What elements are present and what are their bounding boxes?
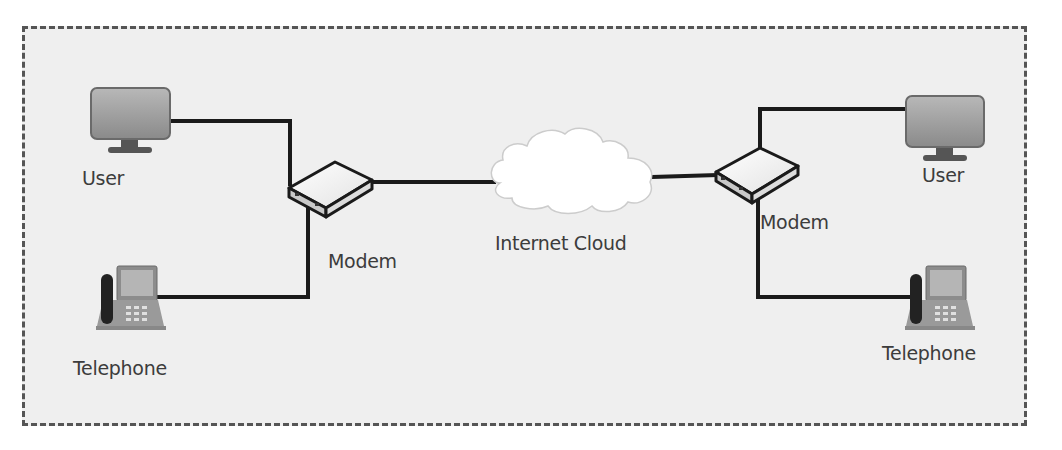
label-telephone-left: Telephone xyxy=(73,357,167,379)
modem-icon-right[interactable] xyxy=(716,148,798,203)
diagram-graphics xyxy=(0,0,1062,450)
cloud-icon[interactable] xyxy=(491,128,651,213)
label-internet-cloud: Internet Cloud xyxy=(495,232,627,254)
modem-icon-left[interactable] xyxy=(289,162,372,217)
link-user-left-modem xyxy=(170,121,290,186)
label-user-right: User xyxy=(922,164,964,186)
computer-icon-left[interactable] xyxy=(91,88,170,153)
telephone-icon-right[interactable] xyxy=(905,266,975,330)
link-modem-right-user xyxy=(760,109,908,150)
link-cloud-modem-right xyxy=(652,175,718,177)
link-telephone-left-modem xyxy=(155,208,308,297)
label-modem-right: Modem xyxy=(760,211,829,233)
diagram-canvas: User Telephone Modem Internet Cloud Mode… xyxy=(0,0,1062,450)
computer-icon-right[interactable] xyxy=(906,96,984,161)
label-telephone-right: Telephone xyxy=(882,342,976,364)
label-modem-left: Modem xyxy=(328,250,397,272)
link-modem-right-telephone xyxy=(758,192,916,297)
label-user-left: User xyxy=(82,167,124,189)
telephone-icon-left[interactable] xyxy=(96,266,166,330)
